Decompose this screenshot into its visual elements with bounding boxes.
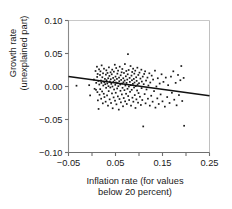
scatter-point (178, 94, 180, 96)
scatter-point (138, 92, 140, 94)
scatter-point (175, 82, 177, 84)
scatter-point (180, 65, 182, 67)
scatter-point (121, 94, 123, 96)
scatter-point (105, 69, 107, 71)
scatter-point (120, 79, 122, 81)
scatter-point (117, 70, 119, 72)
x-tick-label: 0.25 (200, 158, 218, 168)
scatter-point (141, 69, 143, 71)
scatter-point (118, 80, 120, 82)
scatter-point (103, 93, 105, 95)
scatter-point (109, 87, 111, 89)
scatter-point (106, 95, 108, 97)
scatter-point (133, 87, 135, 89)
scatter-point (143, 83, 145, 85)
scatter-plot-figure: 0.100.050.00−0.05−0.10−0.050.050.150.25 … (0, 0, 232, 209)
scatter-point (166, 96, 168, 98)
scatter-point (126, 79, 128, 81)
scatter-point (107, 105, 109, 107)
scatter-point (105, 87, 107, 89)
scatter-point (141, 99, 143, 101)
scatter-point (112, 86, 114, 88)
scatter-point (111, 69, 113, 71)
scatter-point (123, 81, 125, 83)
scatter-point (115, 67, 117, 69)
scatter-point (130, 105, 132, 107)
scatter-point (137, 67, 139, 69)
scatter-point (162, 101, 164, 103)
y-tick-label: 0.10 (44, 16, 62, 26)
scatter-point (172, 70, 174, 72)
scatter-point (139, 72, 141, 74)
scatter-point (157, 77, 159, 79)
scatter-point (165, 77, 167, 79)
scatter-point (107, 77, 109, 79)
scatter-point (128, 99, 130, 101)
scatter-point (128, 69, 130, 71)
scatter-point (150, 95, 152, 97)
y-axis-title: Growth rate (unexplained part) (8, 0, 38, 128)
scatter-point (156, 86, 158, 88)
scatter-point (116, 103, 118, 105)
scatter-point (98, 68, 100, 70)
scatter-point (129, 91, 131, 93)
scatter-point (145, 102, 147, 104)
scatter-point (100, 98, 102, 100)
scatter-point (159, 83, 161, 85)
scatter-point (112, 77, 114, 79)
scatter-point (99, 74, 101, 76)
scatter-point (104, 78, 106, 80)
scatter-point (113, 89, 115, 91)
scatter-point (116, 88, 118, 90)
scatter-point (99, 94, 101, 96)
x-axis-title: Inflation rate (for values below 20 perc… (40, 176, 230, 198)
scatter-point (112, 107, 114, 109)
scatter-point (101, 76, 103, 78)
scatter-point (146, 89, 148, 91)
y-axis: 0.100.050.00−0.05−0.10 (39, 16, 69, 158)
scatter-point (125, 70, 127, 72)
scatter-point (154, 70, 156, 72)
scatter-point (156, 98, 158, 100)
scatter-point (117, 73, 119, 75)
scatter-point (148, 72, 150, 74)
scatter-point (118, 109, 120, 111)
x-axis-title-line-1: Inflation rate (for values (40, 176, 230, 187)
scatter-point (124, 101, 126, 103)
scatter-point (110, 83, 112, 85)
scatter-point (113, 71, 115, 73)
scatter-point (152, 79, 154, 81)
scatter-point (110, 102, 112, 104)
scatter-point (183, 125, 185, 127)
scatter-point (120, 90, 122, 92)
scatter-point (158, 103, 160, 105)
scatter-point (130, 65, 132, 67)
scatter-point (104, 83, 106, 85)
scatter-point (127, 73, 129, 75)
scatter-point (119, 98, 121, 100)
scatter-point (88, 84, 90, 86)
scatter-point (144, 70, 146, 72)
scatter-point (136, 99, 138, 101)
scatter-point (169, 102, 171, 104)
scatter-point (122, 105, 124, 107)
scatter-point (95, 89, 97, 91)
scatter-point (111, 73, 113, 75)
scatter-point (111, 93, 113, 95)
x-tick-label: −0.05 (57, 158, 81, 168)
scatter-point (125, 75, 127, 77)
scatter-point (97, 91, 99, 93)
scatter-point (170, 76, 172, 78)
scatter-point (124, 89, 126, 91)
scatter-point (116, 78, 118, 80)
scatter-point (121, 68, 123, 70)
scatter-point (102, 102, 104, 104)
scatter-point (108, 90, 110, 92)
scatter-point (96, 76, 98, 78)
scatter-point (114, 100, 116, 102)
scatter-point (136, 90, 138, 92)
scatter-point (114, 84, 116, 86)
scatter-point (144, 93, 146, 95)
y-axis-title-line-2: (unexplained part) (19, 0, 30, 128)
scatter-point (114, 79, 116, 81)
